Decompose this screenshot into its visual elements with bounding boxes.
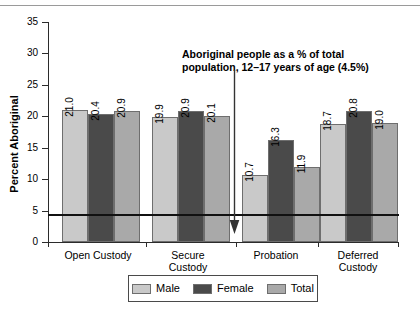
bar-value-label: 19.0	[374, 110, 385, 129]
x-axis-tick	[236, 242, 237, 247]
category-label-line1: Probation	[232, 249, 320, 261]
legend-item-total: Total	[267, 283, 314, 294]
bar-female: 16.3	[268, 140, 294, 243]
bar-value-label: 21.0	[64, 97, 75, 116]
annotation-text: Aboriginal people as a % of total popula…	[182, 48, 408, 74]
category-label-line2: Custody	[143, 261, 233, 273]
bar-value-label: 16.3	[270, 127, 281, 146]
bar-value-label: 10.7	[244, 162, 255, 181]
page-rule	[0, 5, 420, 6]
x-axis-tick	[398, 242, 399, 247]
legend-item-male: Male	[132, 283, 180, 294]
category-label-line1: Secure	[143, 249, 233, 261]
reference-line-4-5-percent	[48, 214, 399, 216]
bar-female: 20.4	[88, 114, 114, 242]
chart-legend: Male Female Total	[128, 275, 318, 302]
legend-item-female: Female	[193, 283, 254, 294]
annotation-line-1: Aboriginal people as a % of total	[182, 48, 408, 61]
bar-female: 20.8	[346, 111, 372, 242]
legend-label-male: Male	[156, 283, 180, 294]
bar-male: 19.9	[152, 117, 178, 242]
bar-male: 21.0	[62, 110, 88, 242]
bar-value-label: 11.9	[296, 155, 307, 174]
bar-total: 11.9	[294, 167, 320, 242]
y-axis-tick-labels: 35 30 25 20 15 10 5 0	[8, 22, 38, 243]
x-axis-line	[48, 242, 399, 243]
x-axis-tick	[146, 242, 147, 247]
bar-male: 10.7	[242, 175, 268, 242]
x-category-label-secure-custody: Secure Custody	[143, 249, 233, 273]
bar-value-label: 19.9	[154, 104, 165, 123]
bar-chart-figure: Percent Aboriginal 35 30 25 20 15 10 5 0…	[0, 0, 420, 316]
bar-group-open-custody: 21.0 20.4 20.9	[62, 22, 140, 242]
y-tick-label: 15	[12, 143, 38, 153]
bar-female: 20.9	[178, 111, 204, 242]
down-arrow-icon	[229, 70, 240, 235]
bar-value-label: 18.7	[322, 112, 333, 131]
y-tick-label: 10	[12, 174, 38, 184]
bar-value-label: 20.9	[116, 98, 127, 117]
bar-value-label: 20.9	[180, 98, 191, 117]
y-tick-label: 30	[12, 48, 38, 58]
bar-total: 19.0	[372, 123, 398, 242]
legend-swatch-total	[267, 284, 286, 294]
bar-total: 20.1	[204, 116, 230, 242]
annotation-line-2: population, 12–17 years of age (4.5%)	[182, 61, 408, 74]
y-tick-label: 20	[12, 111, 38, 121]
x-axis-tick	[318, 242, 319, 247]
category-label-line1: Deferred	[316, 249, 400, 261]
x-axis-tick	[48, 242, 49, 247]
category-label-line2: Custody	[316, 261, 400, 273]
legend-label-total: Total	[291, 283, 314, 294]
x-category-label-probation: Probation	[232, 249, 320, 261]
x-category-label-deferred-custody: Deferred Custody	[316, 249, 400, 273]
legend-swatch-male	[132, 284, 151, 294]
bar-value-label: 20.1	[206, 103, 217, 122]
y-tick-label: 25	[12, 80, 38, 90]
legend-label-female: Female	[217, 283, 254, 294]
bar-male: 18.7	[320, 124, 346, 242]
y-tick-label: 35	[12, 17, 38, 27]
bar-value-label: 20.4	[90, 101, 101, 120]
y-tick-label: 0	[12, 237, 38, 247]
x-category-label-open-custody: Open Custody	[50, 249, 146, 261]
bar-total: 20.9	[114, 111, 140, 242]
category-label-line1: Open Custody	[50, 249, 146, 261]
legend-swatch-female	[193, 284, 212, 294]
bar-value-label: 20.8	[348, 99, 359, 118]
y-tick-label: 5	[12, 206, 38, 216]
